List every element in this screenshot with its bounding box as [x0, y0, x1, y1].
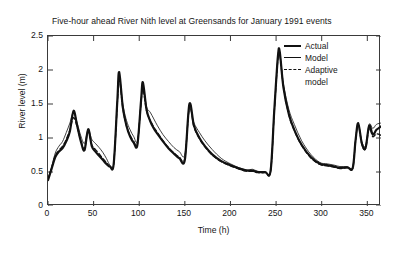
legend-label-model: Model	[303, 52, 328, 64]
y-tick-label: 0.5	[13, 166, 43, 176]
x-tick-label: 100	[121, 208, 155, 218]
legend-label-actual: Actual	[303, 40, 328, 52]
x-tick-label: 50	[76, 208, 110, 218]
legend-swatch-adaptive	[283, 64, 303, 76]
y-tick-label: 1.5	[13, 98, 43, 108]
x-tick-label: 350	[349, 208, 383, 218]
chart-title: Five-hour ahead River Nith level at Gree…	[52, 16, 392, 27]
y-tick-label: 2	[13, 64, 43, 74]
x-tick-label: 0	[30, 208, 64, 218]
x-tick-label: 200	[212, 208, 246, 218]
x-axis-label: Time (h)	[47, 225, 380, 235]
chart-figure: Five-hour ahead River Nith level at Gree…	[0, 0, 399, 254]
x-axis-tick-labels: 050100150200250300350	[47, 208, 380, 222]
x-tick-label: 300	[304, 208, 338, 218]
legend-item-adaptive: Adaptive	[283, 64, 379, 76]
legend-label-adaptive-first: Adaptive	[303, 64, 338, 76]
legend-item-model: Model	[283, 52, 379, 64]
x-tick-label: 250	[258, 208, 292, 218]
y-tick-label: 2.5	[13, 30, 43, 40]
legend-swatch-actual	[283, 40, 303, 52]
y-tick-label: 1	[13, 132, 43, 142]
legend-item-adaptive-cont: model	[283, 76, 379, 88]
legend-label-adaptive-second: model	[283, 76, 328, 88]
x-tick-label: 150	[167, 208, 201, 218]
legend-swatch-model	[283, 52, 303, 64]
legend-item-actual: Actual	[283, 40, 379, 52]
chart-legend: Actual Model Adaptive model	[283, 40, 379, 88]
y-axis-tick-labels: 00.511.522.5	[9, 35, 43, 205]
